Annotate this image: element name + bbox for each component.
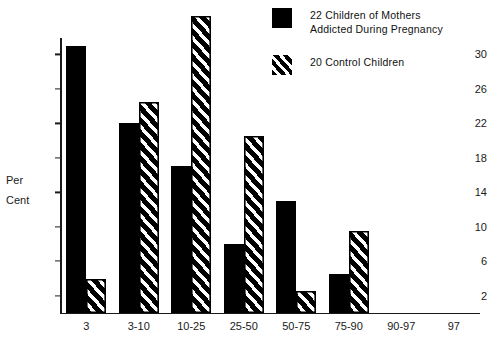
bar-addicted-mothers (66, 46, 86, 313)
x-axis-tick-label: 97 (448, 320, 460, 332)
x-axis-tick-label: 50-75 (282, 320, 310, 332)
y-axis-title: Per Cent (6, 170, 29, 210)
bar-group (375, 0, 428, 313)
bar-control-children (349, 231, 369, 313)
plot-area (60, 0, 480, 313)
x-axis-tick-label: 3-10 (128, 320, 150, 332)
bar-addicted-mothers (119, 123, 139, 313)
bar-addicted-mothers (224, 244, 244, 313)
bar-group (60, 0, 113, 313)
bar-group (428, 0, 481, 313)
x-axis-tick-label: 3 (83, 320, 89, 332)
bar-addicted-mothers (276, 201, 296, 313)
bar-control-children (244, 136, 264, 313)
bar-group (270, 0, 323, 313)
x-axis-tick-label: 10-25 (177, 320, 205, 332)
bar-addicted-mothers (171, 166, 191, 313)
bar-control-children (191, 16, 211, 313)
bar-control-children (86, 279, 106, 313)
bar-group (165, 0, 218, 313)
bar-group (323, 0, 376, 313)
bar-group (113, 0, 166, 313)
x-axis-tick-label: 25-50 (230, 320, 258, 332)
x-axis-tick-label: 90-97 (387, 320, 415, 332)
bar-chart: 22 Children of Mothers Addicted During P… (0, 0, 487, 345)
bar-control-children (139, 102, 159, 313)
bar-addicted-mothers (329, 274, 349, 313)
bar-control-children (296, 291, 316, 313)
bar-group (218, 0, 271, 313)
x-axis-tick-label: 75-90 (335, 320, 363, 332)
